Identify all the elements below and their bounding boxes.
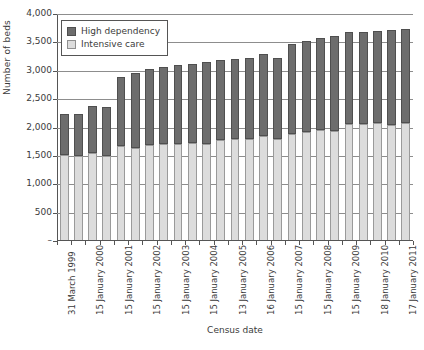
bar-1	[60, 114, 69, 241]
legend-item-intensive-care: Intensive care	[67, 38, 160, 51]
y-tick-label: 1,000	[0, 179, 52, 188]
y-tick-label: –	[0, 236, 52, 245]
bar-21	[345, 32, 354, 241]
bar-segment-high-dependency	[145, 69, 154, 144]
bar-segment-high-dependency	[131, 73, 140, 148]
bar-segment-high-dependency	[288, 44, 297, 135]
bar-20	[330, 36, 339, 241]
bar-15	[259, 54, 268, 241]
x-tick-mark	[199, 241, 200, 245]
x-tick-label: 15 January 2004	[210, 245, 219, 315]
bar-segment-intensive-care	[387, 125, 396, 241]
bar-segment-high-dependency	[216, 60, 225, 140]
legend-label-intensive-care: Intensive care	[81, 40, 145, 49]
bar-14	[245, 58, 254, 241]
bar-segment-high-dependency	[174, 65, 183, 144]
y-tick-label: 2,000	[0, 123, 52, 132]
bar-segment-high-dependency	[202, 62, 211, 144]
bar-9	[174, 65, 183, 241]
bar-segment-intensive-care	[117, 146, 126, 241]
bar-13	[231, 59, 240, 241]
bar-segment-intensive-care	[216, 140, 225, 241]
bar-segment-high-dependency	[117, 77, 126, 146]
x-tick-mark	[142, 241, 143, 245]
bar-segment-intensive-care	[316, 130, 325, 241]
bar-segment-intensive-care	[131, 148, 140, 241]
bar-segment-intensive-care	[159, 144, 168, 241]
bar-10	[188, 64, 197, 241]
bar-segment-intensive-care	[188, 143, 197, 241]
chart-legend: High dependency Intensive care	[61, 20, 168, 56]
bar-segment-intensive-care	[345, 124, 354, 241]
x-tick-mark	[285, 241, 286, 245]
bar-12	[216, 60, 225, 241]
bar-17	[288, 44, 297, 241]
x-tick-mark	[399, 241, 400, 245]
x-tick-label: 15 January 2008	[324, 245, 333, 315]
bar-16	[273, 58, 282, 241]
x-tick-mark	[370, 241, 371, 245]
bar-segment-intensive-care	[102, 156, 111, 241]
bar-segment-intensive-care	[145, 145, 154, 241]
bar-segment-high-dependency	[273, 58, 282, 139]
x-tick-label: 15 January 2007	[295, 245, 304, 315]
bar-6	[131, 73, 140, 241]
bar-segment-high-dependency	[302, 41, 311, 132]
bar-24	[387, 30, 396, 241]
bar-segment-high-dependency	[387, 30, 396, 124]
bar-segment-intensive-care	[88, 153, 97, 241]
bar-11	[202, 62, 211, 241]
bar-segment-high-dependency	[330, 36, 339, 131]
bar-segment-intensive-care	[174, 144, 183, 241]
bar-segment-high-dependency	[188, 64, 197, 143]
bar-segment-intensive-care	[288, 134, 297, 241]
bar-segment-high-dependency	[245, 58, 254, 139]
bar-segment-high-dependency	[259, 54, 268, 136]
intensive-care-swatch-icon	[67, 40, 76, 49]
bar-segment-intensive-care	[401, 123, 410, 241]
bed-numbers-stacked-bar-chart: Number of beds 4,0003,5003,0002,5002,000…	[0, 0, 424, 350]
y-tick-label: 2,500	[0, 94, 52, 103]
bar-23	[373, 31, 382, 241]
x-tick-label: 18 January 2010	[381, 245, 390, 315]
bar-segment-intensive-care	[231, 139, 240, 241]
bar-18	[302, 41, 311, 241]
bar-segment-intensive-care	[330, 131, 339, 241]
x-tick-mark	[228, 241, 229, 245]
x-tick-label: 15 January 2002	[153, 245, 162, 315]
bar-19	[316, 38, 325, 241]
bar-segment-high-dependency	[102, 107, 111, 156]
y-tick-label: 1,500	[0, 151, 52, 160]
x-tick-label: 17 January 2011	[409, 245, 418, 315]
bar-2	[74, 114, 83, 241]
bar-segment-intensive-care	[259, 136, 268, 241]
y-tick-label: 3,500	[0, 37, 52, 46]
x-tick-mark	[57, 241, 58, 245]
x-tick-label: 15 January 2009	[352, 245, 361, 315]
bar-segment-high-dependency	[159, 67, 168, 144]
x-tick-label: 13 January 2005	[239, 245, 248, 315]
x-tick-mark	[171, 241, 172, 245]
bar-segment-intensive-care	[202, 144, 211, 241]
bar-22	[359, 32, 368, 241]
x-tick-mark	[313, 241, 314, 245]
bar-segment-intensive-care	[245, 139, 254, 241]
bar-segment-intensive-care	[373, 123, 382, 241]
bar-segment-high-dependency	[74, 114, 83, 156]
bar-segment-high-dependency	[345, 32, 354, 124]
bar-segment-intensive-care	[273, 139, 282, 241]
x-tick-mark	[342, 241, 343, 245]
x-tick-mark	[85, 241, 86, 245]
bar-segment-high-dependency	[88, 106, 97, 153]
x-axis-title: Census date	[57, 325, 413, 335]
bar-segment-high-dependency	[373, 31, 382, 123]
high-dependency-swatch-icon	[67, 27, 76, 36]
y-tick-label: 3,000	[0, 66, 52, 75]
bar-5	[117, 77, 126, 241]
bar-7	[145, 69, 154, 241]
y-tick-label: 4,000	[0, 9, 52, 18]
x-tick-label: 15 January 2003	[182, 245, 191, 315]
y-tick-label: 500	[0, 208, 52, 217]
x-tick-label: 16 January 2006	[267, 245, 276, 315]
bar-4	[102, 107, 111, 241]
